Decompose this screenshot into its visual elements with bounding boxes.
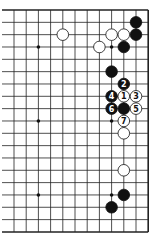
star-point bbox=[110, 193, 114, 197]
star-point bbox=[37, 193, 41, 197]
white-stone bbox=[118, 164, 130, 176]
go-board: 2413657 bbox=[0, 0, 160, 245]
move-number-label: 4 bbox=[109, 92, 115, 101]
black-stone bbox=[106, 201, 118, 213]
star-point bbox=[110, 119, 114, 123]
white-stone bbox=[118, 128, 130, 140]
move-number-label: 7 bbox=[121, 117, 127, 126]
black-stone bbox=[130, 17, 142, 29]
star-point bbox=[37, 45, 41, 49]
star-point bbox=[110, 45, 114, 49]
black-stone bbox=[106, 66, 118, 78]
move-number-label: 1 bbox=[121, 92, 127, 101]
black-stone bbox=[118, 41, 130, 53]
move-number-label: 6 bbox=[109, 105, 115, 114]
white-stone bbox=[57, 29, 69, 41]
black-stone bbox=[118, 103, 130, 115]
black-stone bbox=[130, 29, 142, 41]
black-stone bbox=[118, 189, 130, 201]
move-number-label: 5 bbox=[133, 105, 139, 114]
move-number-label: 3 bbox=[133, 92, 139, 101]
white-stone bbox=[118, 29, 130, 41]
star-point bbox=[37, 119, 41, 123]
move-number-label: 2 bbox=[121, 80, 127, 89]
white-stone bbox=[106, 29, 118, 41]
white-stone bbox=[94, 41, 106, 53]
